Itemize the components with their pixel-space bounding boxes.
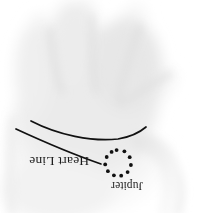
annotation-overlay bbox=[0, 0, 213, 213]
ring-dot bbox=[110, 150, 114, 154]
ring-dot bbox=[115, 148, 119, 152]
ring-dot bbox=[106, 169, 110, 173]
ring-dot bbox=[112, 173, 116, 177]
ring-dot bbox=[129, 163, 133, 167]
heart-line-stroke bbox=[31, 121, 146, 140]
ring-dot bbox=[103, 163, 107, 167]
ring-dot bbox=[128, 155, 132, 159]
jupiter-ring bbox=[103, 148, 133, 177]
ring-dot bbox=[126, 170, 130, 174]
ring-dot bbox=[123, 149, 127, 153]
ring-dot bbox=[119, 174, 123, 178]
label-heart-line: Heart Line bbox=[29, 154, 89, 168]
label-jupiter: Jupiter bbox=[111, 179, 143, 191]
palmistry-figure: Heart Line Jupiter bbox=[0, 0, 213, 213]
ring-dot bbox=[105, 155, 109, 159]
